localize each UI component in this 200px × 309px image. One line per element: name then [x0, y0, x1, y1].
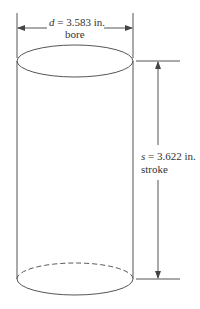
- cylinder-top-ellipse: [17, 45, 133, 77]
- bore-value: = 3.583 in.: [55, 16, 106, 28]
- bore-label: d = 3.583 in.: [49, 16, 105, 28]
- stroke-value: = 3.622 in.: [145, 150, 196, 162]
- cylinder-bottom-back-dashed: [17, 263, 133, 279]
- cylinder-bottom-front: [17, 279, 133, 295]
- stroke-caption: stroke: [141, 163, 168, 175]
- bore-caption: bore: [65, 28, 85, 40]
- stroke-label: s = 3.622 in.: [141, 150, 196, 162]
